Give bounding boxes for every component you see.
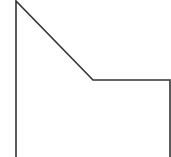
outline-polyline	[16, 1, 170, 157]
line-diagram	[0, 0, 171, 157]
